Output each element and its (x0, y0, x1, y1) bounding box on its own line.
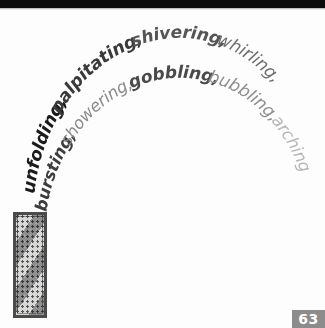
book-page: unfolding, palpitating, shivering, whirl… (0, 0, 325, 328)
column-inner-border (17, 216, 43, 314)
inner-arc-word-arching: arching (268, 111, 315, 174)
striped-column (13, 212, 47, 318)
inner-word-5-label: arching (268, 111, 315, 174)
arc-word-art: unfolding, palpitating, shivering, whirl… (0, 0, 325, 328)
inner-word-3-label: gobbling, (125, 62, 222, 93)
inner-arc-word-gobbling: gobbling, (125, 62, 222, 93)
page-number-badge: 63 (292, 310, 325, 328)
